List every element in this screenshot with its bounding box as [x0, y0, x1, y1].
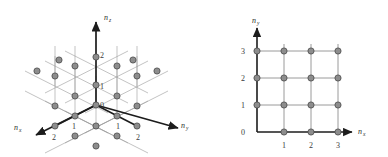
- lattice-node: [93, 143, 99, 149]
- lattice-node: [93, 102, 99, 108]
- lattice-node: [56, 57, 62, 63]
- lattice-node: [93, 54, 99, 60]
- ytick-2: 2: [241, 74, 245, 83]
- lattice-node: [114, 133, 120, 139]
- axis-label-ny-right-base: n: [252, 16, 256, 25]
- xtick-2: 2: [309, 141, 313, 150]
- lattice-node: [308, 102, 314, 108]
- xtick-3: 3: [336, 141, 340, 150]
- lattice-node: [130, 57, 136, 63]
- lattice-node: [114, 93, 120, 99]
- axis-label-nx-right-base: n: [358, 127, 362, 136]
- lattice-node: [93, 123, 99, 129]
- axis-label-nx-base: n: [14, 123, 18, 132]
- lattice-node: [154, 68, 160, 74]
- lattice-node: [114, 63, 120, 69]
- lattice-node: [34, 68, 40, 74]
- xtick-1: 1: [282, 141, 286, 150]
- lattice-node: [281, 102, 287, 108]
- axis-label-nx-sub: x: [18, 127, 22, 133]
- lattice-node: [335, 48, 341, 54]
- lattice-node: [72, 93, 78, 99]
- lattice-node: [134, 73, 140, 79]
- lattice-node: [335, 75, 341, 81]
- figure-canvas: 0 1 2 1 2 1 2 n z n x n y: [0, 0, 388, 157]
- lattice-node: [308, 75, 314, 81]
- lattice-node: [72, 63, 78, 69]
- lattice-node: [72, 113, 78, 119]
- lattice-node: [254, 48, 260, 54]
- lattice-node: [134, 123, 140, 129]
- lattice-node: [52, 73, 58, 79]
- tick-right-1: 1: [116, 122, 120, 131]
- lattice-node: [72, 133, 78, 139]
- lattice-node: [308, 48, 314, 54]
- tick-left-1: 1: [72, 122, 76, 131]
- background: [0, 0, 388, 157]
- axis-label-ny-base: n: [181, 121, 185, 130]
- lattice-node: [308, 129, 314, 135]
- tick-vertical-1: 1: [100, 82, 104, 91]
- lattice-node: [254, 102, 260, 108]
- lattice-node: [281, 75, 287, 81]
- lattice-figure-svg: 0 1 2 1 2 1 2 n z n x n y: [0, 0, 388, 157]
- axis-label-ny-right-sub: y: [256, 20, 260, 26]
- ytick-1: 1: [241, 101, 245, 110]
- lattice-node: [335, 129, 341, 135]
- axis-label-nx-right-sub: x: [362, 131, 366, 137]
- axis-label-ny-sub: y: [185, 125, 189, 131]
- lattice-node: [52, 123, 58, 129]
- ytick-0: 0: [241, 128, 245, 137]
- lattice-node: [281, 129, 287, 135]
- lattice-node: [335, 102, 341, 108]
- axis-label-nz-base: n: [104, 13, 108, 22]
- tick-left-2: 2: [52, 133, 56, 142]
- lattice-node: [114, 113, 120, 119]
- lattice-node: [134, 103, 140, 109]
- tick-origin-0: 0: [100, 101, 104, 110]
- lattice-node: [281, 48, 287, 54]
- lattice-node: [52, 103, 58, 109]
- lattice-node: [254, 75, 260, 81]
- tick-vertical-2: 2: [100, 51, 104, 60]
- ytick-3: 3: [241, 47, 245, 56]
- lattice-node: [93, 82, 99, 88]
- tick-right-2: 2: [136, 133, 140, 142]
